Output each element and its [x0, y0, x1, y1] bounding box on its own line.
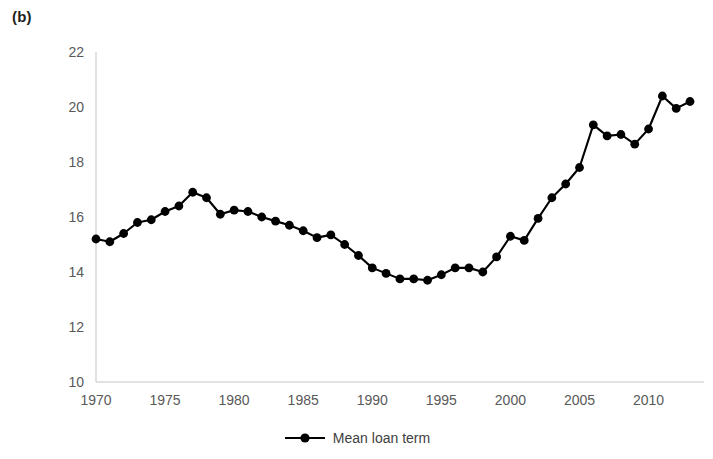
x-axis-tick-label: 2005: [550, 392, 610, 408]
data-point-marker: [285, 221, 294, 230]
data-point-marker: [174, 202, 183, 211]
chart-legend: Mean loan term: [0, 430, 713, 446]
data-point-marker: [589, 120, 598, 129]
legend-label: Mean loan term: [333, 430, 430, 446]
data-point-marker: [244, 207, 253, 216]
x-axis-tick-label: 1985: [273, 392, 333, 408]
data-point-marker: [147, 215, 156, 224]
data-point-marker: [686, 97, 695, 106]
data-point-marker: [617, 130, 626, 139]
data-point-marker: [313, 233, 322, 242]
data-point-marker: [326, 230, 335, 239]
legend-marker-icon: [283, 431, 327, 445]
data-point-marker: [202, 193, 211, 202]
data-point-marker: [105, 237, 114, 246]
x-axis-tick-label: 1995: [411, 392, 471, 408]
data-point-marker: [451, 263, 460, 272]
data-point-marker: [409, 274, 418, 283]
line-chart-canvas: [0, 0, 713, 459]
y-axis-tick-label: 18: [44, 154, 84, 170]
data-point-marker: [299, 226, 308, 235]
data-point-marker: [506, 232, 515, 241]
data-point-marker: [547, 193, 556, 202]
y-axis-tick-label: 20: [44, 99, 84, 115]
data-point-marker: [478, 268, 487, 277]
data-point-marker: [575, 163, 584, 172]
data-point-marker: [437, 270, 446, 279]
data-point-marker: [423, 276, 432, 285]
data-point-marker: [382, 269, 391, 278]
series-line: [96, 96, 690, 280]
y-axis-tick-label: 14: [44, 264, 84, 280]
data-point-marker: [492, 252, 501, 261]
data-point-marker: [161, 207, 170, 216]
y-axis-tick-label: 16: [44, 209, 84, 225]
data-point-marker: [534, 214, 543, 223]
data-point-marker: [561, 180, 570, 189]
data-point-marker: [603, 131, 612, 140]
series-mean-loan-term: [92, 92, 695, 285]
data-point-marker: [230, 206, 239, 215]
data-point-marker: [271, 217, 280, 226]
data-point-marker: [257, 213, 266, 222]
data-point-marker: [119, 229, 128, 238]
data-point-marker: [644, 125, 653, 134]
x-axis-tick-label: 2010: [619, 392, 679, 408]
y-axis-tick-label: 12: [44, 319, 84, 335]
data-point-marker: [396, 274, 405, 283]
x-axis-tick-label: 1970: [66, 392, 126, 408]
x-axis-tick-label: 1975: [135, 392, 195, 408]
y-axis-tick-label: 22: [44, 44, 84, 60]
data-point-marker: [92, 235, 101, 244]
x-axis-tick-label: 1990: [342, 392, 402, 408]
data-point-marker: [465, 263, 474, 272]
data-point-marker: [368, 263, 377, 272]
data-point-marker: [658, 92, 667, 101]
data-point-marker: [188, 188, 197, 197]
x-axis-tick-label: 2000: [480, 392, 540, 408]
chart-figure: (b) 22201816141210 197019751980198519901…: [0, 0, 713, 459]
data-point-marker: [630, 140, 639, 149]
series-markers: [92, 92, 695, 285]
data-point-marker: [133, 218, 142, 227]
data-point-marker: [340, 240, 349, 249]
data-point-marker: [354, 251, 363, 260]
y-axis-tick-label: 10: [44, 374, 84, 390]
x-axis-tick-label: 1980: [204, 392, 264, 408]
data-point-marker: [520, 236, 529, 245]
data-point-marker: [216, 210, 225, 219]
axis-lines: [96, 52, 704, 382]
data-point-marker: [672, 104, 681, 113]
